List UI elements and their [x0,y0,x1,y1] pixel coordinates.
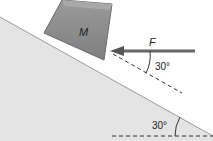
force-angle-label: 30° [155,61,170,72]
force-angle-arc [146,51,150,73]
force-label: F [149,36,157,48]
incline-angle-label: 30° [152,120,167,131]
block-label: M [79,26,89,38]
inclined-plane-diagram: M F 30° 30° [0,0,213,141]
